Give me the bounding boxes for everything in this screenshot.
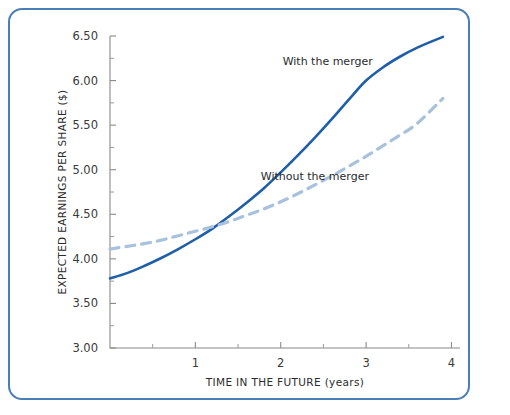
x-axis-title: TIME IN THE FUTURE (years) — [205, 376, 364, 388]
y-tick-label: 6.00 — [72, 74, 98, 88]
axis-lines — [110, 36, 460, 348]
axes-group — [110, 36, 460, 348]
earnings-per-share-line-chart: 3.003.504.004.505.005.506.006.50 1234 EX… — [0, 0, 510, 415]
x-axis-tick-labels: 1234 — [192, 356, 455, 370]
y-tick-label: 5.50 — [72, 118, 98, 132]
data-series-group — [110, 37, 443, 279]
x-tick-label: 1 — [192, 356, 199, 370]
figure-container: 3.003.504.004.505.005.506.006.50 1234 EX… — [0, 0, 510, 415]
y-tick-label: 3.50 — [72, 296, 98, 310]
annotation-without-the-merger: Without the merger — [261, 170, 370, 183]
y-tick-label: 5.00 — [72, 163, 98, 177]
x-tick-label: 4 — [448, 356, 455, 370]
x-tick-label: 2 — [277, 356, 284, 370]
annotation-with-the-merger: With the merger — [283, 55, 374, 68]
y-tick-label: 4.00 — [72, 252, 98, 266]
y-tick-label: 3.00 — [72, 341, 98, 355]
y-axis-tick-labels: 3.003.504.004.505.005.506.006.50 — [72, 29, 98, 355]
ticks-group — [110, 36, 451, 348]
y-tick-label: 4.50 — [72, 207, 98, 221]
series-line-with-the-merger — [110, 37, 443, 279]
y-axis-title: EXPECTED EARNINGS PER SHARE ($) — [56, 90, 68, 295]
y-tick-label: 6.50 — [72, 29, 98, 43]
x-tick-label: 3 — [362, 356, 369, 370]
